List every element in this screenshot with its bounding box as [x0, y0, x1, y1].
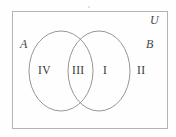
- universal-set-label: U: [150, 14, 159, 26]
- venn-diagram-figure: U A B IV III I II: [0, 0, 176, 137]
- region-label-outside: II: [137, 65, 145, 77]
- set-b-label: B: [146, 38, 153, 50]
- region-label-a-only: IV: [38, 65, 51, 77]
- set-a-label: A: [20, 38, 27, 50]
- region-label-b-only: I: [103, 65, 107, 77]
- region-label-intersection: III: [72, 65, 84, 77]
- scan-artifact-speck: [88, 6, 90, 8]
